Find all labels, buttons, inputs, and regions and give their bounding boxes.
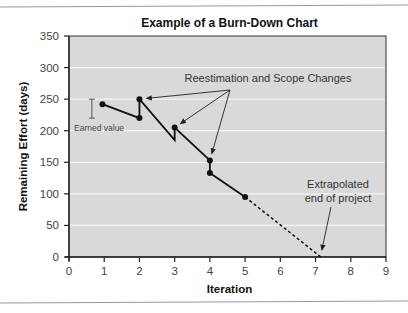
y-axis-label: Remaining Effort (days) bbox=[17, 81, 29, 211]
data-point-marker bbox=[136, 115, 142, 121]
x-tick-label: 8 bbox=[348, 265, 354, 277]
x-tick-label: 6 bbox=[277, 265, 283, 277]
plot-area bbox=[69, 36, 386, 257]
chart-figure: Example of a Burn-Down Chart050100150200… bbox=[0, 0, 408, 313]
data-point-marker bbox=[207, 170, 213, 176]
y-tick-label: 150 bbox=[40, 156, 59, 168]
bottom-rule bbox=[0, 301, 408, 303]
x-tick-label: 5 bbox=[242, 265, 248, 277]
data-point-marker bbox=[207, 157, 213, 163]
x-tick-label: 3 bbox=[171, 265, 177, 277]
x-tick-label: 0 bbox=[66, 265, 72, 277]
chart-title: Example of a Burn-Down Chart bbox=[141, 16, 318, 30]
y-tick-label: 200 bbox=[40, 125, 59, 137]
annotation-earned-value: Earned value bbox=[74, 123, 124, 133]
y-tick-label: 50 bbox=[46, 219, 59, 231]
y-tick-label: 250 bbox=[40, 93, 59, 105]
x-tick-label: 9 bbox=[383, 265, 389, 277]
x-tick-label: 2 bbox=[136, 265, 142, 277]
x-tick-label: 4 bbox=[207, 265, 214, 277]
x-axis-label: Iteration bbox=[207, 283, 252, 295]
top-rule bbox=[0, 5, 408, 7]
annotation-extrapolated-line2: end of project bbox=[305, 192, 372, 204]
annotation-extrapolated-line1: Extrapolated bbox=[307, 178, 369, 190]
x-tick-label: 7 bbox=[312, 265, 318, 277]
y-tick-label: 300 bbox=[40, 62, 59, 74]
data-point-marker bbox=[136, 96, 142, 102]
annotation-reestimation: Reestimation and Scope Changes bbox=[185, 72, 352, 84]
x-tick-label: 1 bbox=[101, 265, 107, 277]
y-tick-label: 350 bbox=[40, 30, 59, 42]
y-tick-label: 0 bbox=[53, 251, 59, 263]
data-point-marker bbox=[172, 125, 178, 131]
y-tick-label: 100 bbox=[40, 188, 59, 200]
data-point-marker bbox=[99, 101, 105, 107]
burn-down-chart: Example of a Burn-Down Chart050100150200… bbox=[0, 0, 408, 313]
